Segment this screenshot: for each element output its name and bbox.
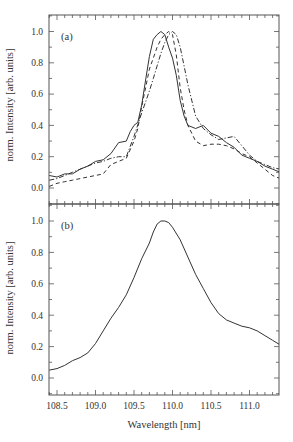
x-tick-label: 111.0	[239, 401, 260, 411]
figure: 0.00.20.40.60.81.0(a) 0.00.20.40.60.81.0…	[0, 0, 293, 442]
panel-a: 0.00.20.40.60.81.0(a)	[31, 15, 280, 204]
y-tick-label: 0.8	[31, 58, 43, 68]
y-tick-label: 0.8	[31, 248, 43, 258]
series-solid-line	[49, 221, 280, 370]
panel-label: (b)	[61, 220, 74, 232]
panel-label: (a)	[61, 31, 73, 43]
y-tick-label: 0.2	[31, 342, 43, 352]
plot-frame	[49, 15, 279, 204]
y-tick-label: 0.6	[31, 279, 43, 289]
series-dashed-line	[49, 32, 280, 187]
x-tick-label: 109.5	[123, 401, 145, 411]
x-tick-label: 110.5	[200, 401, 221, 411]
plot-frame	[49, 204, 279, 395]
y-tick-label: 0.4	[31, 311, 43, 321]
y-tick-label: 1.0	[31, 27, 43, 37]
y-tick-label: 0.4	[31, 121, 43, 131]
y-tick-label: 0.0	[31, 183, 43, 193]
y-tick-label: 0.0	[31, 373, 43, 383]
y-tick-label: 0.2	[31, 152, 43, 162]
x-tick-label: 108.5	[46, 401, 68, 411]
panel-b: 0.00.20.40.60.81.0108.5109.0109.5110.011…	[31, 204, 280, 411]
x-tick-label: 109.0	[85, 401, 107, 411]
x-axis-label: Wavelength [nm]	[128, 419, 201, 430]
y-tick-label: 0.6	[31, 89, 43, 99]
x-tick-label: 110.0	[162, 401, 183, 411]
y-tick-label: 1.0	[31, 216, 43, 226]
series-dash-dot-line	[49, 32, 280, 181]
y-axis-label-a: norm. Intensity [arb. units]	[4, 49, 15, 162]
y-axis-label-b: norm. Intensity [arb. units]	[4, 242, 15, 355]
